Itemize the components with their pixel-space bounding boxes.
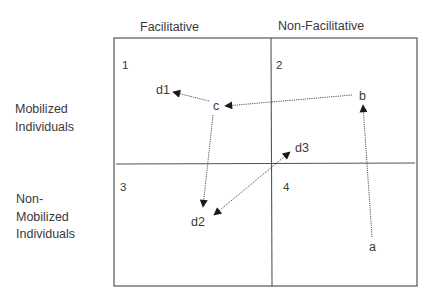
- arrow-b-to-c: [225, 95, 352, 106]
- node-b: b: [359, 89, 366, 103]
- arrow-a-to-b: [363, 105, 372, 237]
- quadrant-number-1: 1: [122, 59, 128, 71]
- row-header-line: Mobilized: [15, 102, 68, 116]
- quadrant-number-4: 4: [283, 181, 290, 193]
- row-header-line: Individuals: [16, 227, 75, 241]
- row-header-non-mobilized: Non- Mobilized Individuals: [16, 192, 75, 241]
- quadrant-number-2: 2: [276, 59, 282, 71]
- node-c: c: [213, 99, 219, 113]
- row-headers: Mobilized Individuals Non- Mobilized Ind…: [15, 102, 75, 241]
- quadrant-numbers: 1 2 3 4: [120, 59, 290, 193]
- row-header-line: Individuals: [15, 120, 74, 134]
- column-header-non-facilitative: Non-Facilitative: [278, 19, 364, 33]
- column-header-facilitative: Facilitative: [140, 20, 199, 34]
- arrow-d2-to-d3-bidirectional: [214, 152, 290, 215]
- row-header-line: Non-: [16, 192, 43, 206]
- quadrant-number-3: 3: [120, 181, 126, 193]
- mobilization-quadrant-diagram: Facilitative Non-Facilitative Mobilized …: [0, 0, 435, 295]
- row-header-mobilized: Mobilized Individuals: [15, 102, 74, 134]
- vertical-divider: [271, 38, 272, 286]
- arrow-c-to-d1: [173, 92, 209, 101]
- node-d3: d3: [295, 141, 309, 155]
- column-headers: Facilitative Non-Facilitative: [140, 19, 364, 34]
- node-d1: d1: [156, 83, 170, 97]
- arrow-c-to-d2: [203, 115, 213, 207]
- node-d2: d2: [191, 215, 205, 229]
- row-header-line: Mobilized: [16, 210, 69, 224]
- nodes: a b c d1 d2 d3: [156, 83, 376, 254]
- horizontal-divider: [116, 163, 415, 164]
- node-a: a: [369, 240, 376, 254]
